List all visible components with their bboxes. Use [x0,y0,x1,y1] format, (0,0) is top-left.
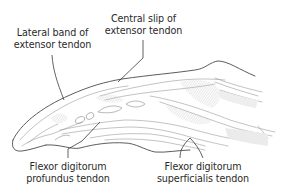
label-fds: Flexor digitorum superficialis tendon [143,161,263,185]
label-lateral-band: Lateral band of extensor tendon [5,27,100,51]
label-central-slip: Central slip of extensor tendon [96,13,191,37]
leader-central-slip [118,40,143,82]
joint-shapes [55,101,145,140]
label-fdp: Flexor digitorum profundus tendon [16,161,120,185]
finger-tendon-diagram: Lateral band of extensor tendon Central … [0,0,285,190]
leader-lateral-band [52,55,64,100]
leader-fds [180,138,203,158]
leader-lines [52,40,203,158]
